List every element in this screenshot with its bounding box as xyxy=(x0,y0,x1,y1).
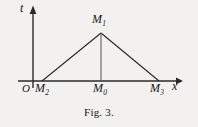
point-label-m3-subscript: 3 xyxy=(160,88,164,97)
point-label-m2-subscript: 2 xyxy=(45,88,49,97)
point-label-m3: M3 xyxy=(150,82,164,94)
point-label-m0-subscript: 0 xyxy=(103,88,107,97)
point-label-m2: M2 xyxy=(35,82,49,94)
point-label-m0-base: M xyxy=(93,81,103,95)
point-label-m3-base: M xyxy=(150,81,160,95)
point-label-m0: M0 xyxy=(93,82,107,94)
point-label-m1-subscript: 1 xyxy=(102,19,106,28)
point-label-m1: M1 xyxy=(92,13,106,25)
figure-caption: Fig. 3. xyxy=(0,106,198,118)
axis-label-t: t xyxy=(20,2,23,14)
axis-label-x: x xyxy=(172,80,177,92)
origin-label: O xyxy=(22,83,30,94)
point-label-m2-base: M xyxy=(35,81,45,95)
t-axis xyxy=(30,6,37,89)
point-label-m1-base: M xyxy=(92,12,102,26)
figure-container: t x O M2 M0 M3 M1 Fig. 3. xyxy=(0,0,198,127)
